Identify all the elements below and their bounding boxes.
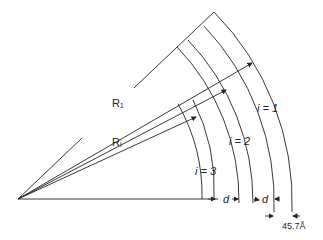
shell-geometry-diagram: R₁ Rᵢ i = 1 i = 2 i = 3 d d 45.7Å — [0, 0, 323, 240]
outer-radius-line-upper — [134, 12, 214, 88]
shell-3-label: i = 3 — [195, 165, 217, 177]
outer-radius-label: R₁ — [112, 97, 124, 109]
arc-shell-3-inner — [178, 104, 202, 199]
spacing-label-1: d — [223, 193, 230, 205]
shell-2-label: i = 2 — [229, 135, 250, 147]
inner-radius-label: Rᵢ — [112, 136, 122, 148]
shell-1-label: i = 1 — [257, 102, 278, 114]
arc-shell-1-outer — [214, 12, 292, 212]
radius-arrow-1 — [18, 63, 252, 199]
outer-radius-line-lower — [18, 138, 82, 199]
arc-shell-2-inner — [177, 47, 239, 203]
arc-shell-2-outer — [188, 40, 253, 203]
thickness-label: 45.7Å — [282, 221, 306, 231]
spacing-label-2: d — [262, 193, 269, 205]
radius-arrow-3 — [18, 117, 196, 199]
spacing-arrow-c — [254, 199, 259, 200]
